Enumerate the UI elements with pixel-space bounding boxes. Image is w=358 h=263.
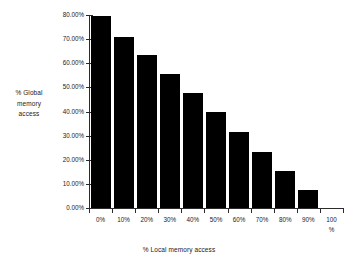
y-axis-tick-label: 40.00%: [63, 108, 84, 115]
x-axis-tick-mark: [112, 208, 113, 213]
y-axis-tick-label: 70.00%: [63, 35, 84, 42]
bar: [229, 132, 249, 208]
bar: [160, 74, 180, 208]
x-axis-tick-mark: [228, 208, 229, 213]
y-axis-title: % Global memory access: [2, 88, 56, 120]
bar: [298, 190, 318, 208]
x-axis-line: [89, 208, 343, 209]
x-axis-tick-mark: [320, 208, 321, 213]
y-axis-title-line-1: % Global: [2, 88, 56, 99]
bar: [91, 16, 111, 208]
x-axis-title: % Local memory access: [0, 246, 358, 253]
bar: [206, 112, 226, 208]
y-axis-title-line-3: access: [2, 109, 56, 120]
x-axis-tick-mark: [204, 208, 205, 213]
x-axis-tick-label: 100 %: [313, 215, 349, 234]
bar: [183, 93, 203, 208]
x-axis-tick-mark: [89, 208, 90, 213]
plot-area: 0.00%10.00%20.00%30.00%40.00%50.00%60.00…: [89, 15, 343, 208]
y-axis-tick-label: 10.00%: [63, 180, 84, 187]
bar: [137, 55, 157, 208]
x-axis-tick-mark: [135, 208, 136, 213]
y-axis-tick-label: 20.00%: [63, 156, 84, 163]
x-axis-tick-mark: [158, 208, 159, 213]
y-axis-tick-label: 0.00%: [66, 204, 84, 211]
y-axis-tick-label: 80.00%: [63, 11, 84, 18]
y-axis-tick-label: 60.00%: [63, 59, 84, 66]
bar: [275, 171, 295, 208]
x-axis-tick-mark: [251, 208, 252, 213]
x-axis-tick-mark: [343, 208, 344, 213]
y-axis-tick-label: 30.00%: [63, 132, 84, 139]
y-axis-tick-label: 50.00%: [63, 83, 84, 90]
bar-chart-figure: % Global memory access 0.00%10.00%20.00%…: [0, 0, 358, 263]
x-axis-tick-mark: [181, 208, 182, 213]
x-axis-tick-mark: [274, 208, 275, 213]
y-axis-title-line-2: memory: [2, 99, 56, 110]
bar: [252, 152, 272, 208]
bar: [114, 37, 134, 208]
x-axis-tick-mark: [297, 208, 298, 213]
